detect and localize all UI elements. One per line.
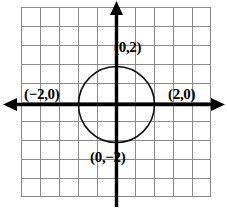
annotation-point-2-0: (2,0) [168,87,195,102]
annotation-point-0-2: (0,2) [114,40,141,55]
graph-figure: (0,2) (−2,0) (2,0) (0,−2) [0,0,227,210]
annotation-point-0-minus2: (0,−2) [90,150,126,165]
x-axis-arrow-right [211,98,225,111]
coordinate-plane-svg [0,0,227,210]
x-axis-arrow-left [3,98,17,111]
annotation-point-minus2-0: (−2,0) [24,87,60,102]
